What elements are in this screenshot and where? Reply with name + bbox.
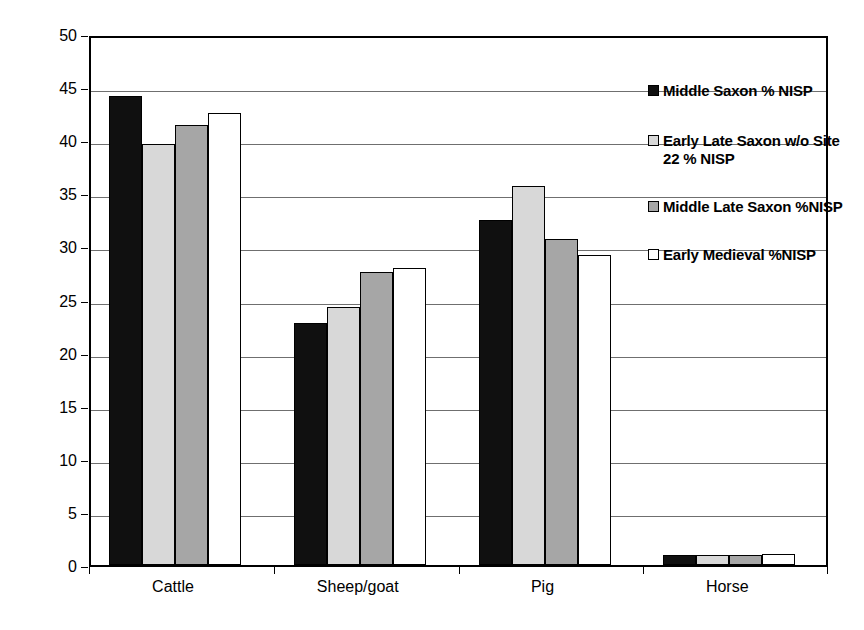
bar [479, 220, 512, 565]
bar [545, 239, 578, 565]
legend-item: Middle Saxon % NISP [648, 82, 843, 100]
bar [729, 555, 762, 565]
x-tick-mark [89, 567, 90, 574]
bar [696, 555, 729, 565]
x-tick-mark [827, 567, 828, 574]
y-tick-mark [81, 461, 88, 462]
y-tick-label: 0 [37, 559, 77, 575]
y-tick-mark [81, 514, 88, 515]
y-tick-label: 50 [37, 28, 77, 44]
y-tick-mark [81, 302, 88, 303]
bar [663, 555, 696, 565]
bar [762, 554, 795, 565]
bar-chart: % NISP 50454035302520151050 CattleSheep/… [0, 0, 864, 630]
bar [208, 113, 241, 565]
plot-area [89, 36, 828, 567]
x-tick-label: Cattle [93, 578, 253, 596]
legend-item: Early Late Saxon w/o Site 22 % NISP [648, 132, 843, 168]
x-tick-label: Horse [647, 578, 807, 596]
y-tick-label: 35 [37, 187, 77, 203]
legend-label: Early Medieval %NISP [663, 246, 843, 264]
legend-swatch-icon [648, 249, 659, 260]
legend-swatch-icon [648, 85, 659, 96]
bar [294, 323, 327, 565]
bar [327, 307, 360, 565]
y-tick-label: 20 [37, 347, 77, 363]
y-tick-mark [81, 195, 88, 196]
x-tick-label: Sheep/goat [278, 578, 438, 596]
y-tick-mark [81, 36, 88, 37]
legend-swatch-icon [648, 135, 659, 146]
legend-item: Early Medieval %NISP [648, 246, 843, 264]
y-tick-mark [81, 408, 88, 409]
bar [512, 186, 545, 565]
y-tick-label: 5 [37, 506, 77, 522]
bar [360, 272, 393, 565]
x-tick-mark [274, 567, 275, 574]
x-tick-mark [459, 567, 460, 574]
x-tick-mark [643, 567, 644, 574]
bar [142, 144, 175, 565]
y-tick-mark [81, 567, 88, 568]
y-tick-label: 45 [37, 81, 77, 97]
bar [578, 255, 611, 565]
x-tick-label: Pig [463, 578, 623, 596]
y-tick-label: 15 [37, 400, 77, 416]
legend-item: Middle Late Saxon %NISP [648, 198, 843, 216]
bar [109, 96, 142, 565]
legend-label: Early Late Saxon w/o Site 22 % NISP [663, 132, 843, 168]
bar-group [461, 38, 646, 565]
y-axis-title: % NISP [0, 50, 2, 250]
y-tick-label: 40 [37, 134, 77, 150]
bar-group [645, 38, 830, 565]
legend-swatch-icon [648, 201, 659, 212]
y-tick-mark [81, 355, 88, 356]
y-tick-mark [81, 248, 88, 249]
y-tick-mark [81, 89, 88, 90]
legend-label: Middle Saxon % NISP [663, 82, 843, 100]
bar [175, 125, 208, 565]
bar-group [276, 38, 461, 565]
y-tick-mark [81, 142, 88, 143]
y-tick-label: 10 [37, 453, 77, 469]
y-tick-label: 25 [37, 294, 77, 310]
bar [393, 268, 426, 565]
bar-group [91, 38, 276, 565]
legend-label: Middle Late Saxon %NISP [663, 198, 843, 216]
y-tick-label: 30 [37, 240, 77, 256]
